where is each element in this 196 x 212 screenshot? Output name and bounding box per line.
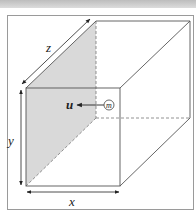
z-label: z	[45, 40, 51, 55]
y-label: y	[6, 133, 14, 148]
velocity-label: u	[66, 97, 73, 112]
shaded-face	[26, 21, 96, 186]
x-label: x	[68, 194, 75, 209]
cuboid-diagram: z y x u m	[0, 0, 196, 212]
particle-label: m	[106, 101, 112, 110]
